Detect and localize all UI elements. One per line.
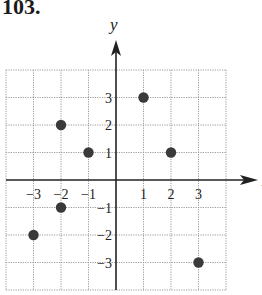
x-tick-label: −1 xyxy=(81,187,96,202)
data-point xyxy=(166,147,176,157)
y-axis-label: y xyxy=(108,15,118,34)
x-tick-label: −2 xyxy=(54,187,69,202)
y-tick-label: −3 xyxy=(97,256,112,271)
data-point xyxy=(28,230,38,240)
y-tick-label: −2 xyxy=(97,228,112,243)
x-tick-label: 1 xyxy=(140,187,147,202)
y-tick-label: −1 xyxy=(97,201,112,216)
y-tick-label: 1 xyxy=(105,146,112,161)
x-tick-label: 2 xyxy=(168,187,175,202)
data-point xyxy=(193,257,203,267)
data-point xyxy=(138,92,148,102)
data-point xyxy=(56,120,66,130)
data-point xyxy=(83,147,93,157)
data-point xyxy=(56,202,66,212)
coordinate-plane: yx −3−2−1123321−1−2−3 xyxy=(0,0,262,295)
y-tick-label: 3 xyxy=(105,91,112,106)
y-tick-label: 2 xyxy=(105,118,112,133)
x-tick-label: −3 xyxy=(26,187,41,202)
x-tick-label: 3 xyxy=(195,187,202,202)
x-axis-label: x xyxy=(261,171,262,190)
